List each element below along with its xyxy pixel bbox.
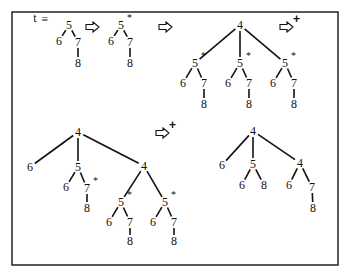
tree-node: 7 [201, 76, 207, 90]
tree-node: 7 [75, 35, 81, 49]
star-marker: * [127, 12, 132, 23]
tree-node: 4 [250, 124, 256, 138]
tree-t-expanded-top: 45*6785*6785*678 [180, 18, 297, 111]
star-marker: * [201, 50, 206, 61]
tree-node: 5 [192, 56, 198, 70]
tree-node: 4 [75, 125, 81, 139]
tree-edge [147, 171, 162, 197]
tree-node: 7 [309, 180, 315, 194]
tree-edge [258, 134, 295, 159]
tree-edge [292, 168, 298, 179]
tree-node: 8 [291, 97, 297, 111]
tree-node: 8 [127, 56, 133, 70]
star-marker: * [291, 50, 296, 61]
tree-node: 5 [118, 195, 124, 209]
plus-marker: + [293, 12, 300, 26]
tree-node: 6 [239, 178, 245, 192]
tree-node: 5 [118, 18, 124, 32]
tree-node: 8 [75, 56, 81, 70]
tree-node: 7 [171, 215, 177, 229]
star-marker: * [246, 50, 251, 61]
tree-t-expanded-bottom-left: 46567*845*6785*678 [27, 125, 177, 248]
rewrite-arrow-icon: + [280, 12, 300, 32]
tree-node: 5 [66, 18, 72, 32]
plus-marker: + [169, 118, 176, 132]
tree-node: 8 [310, 201, 316, 215]
rewrite-arrow-icon [86, 22, 99, 32]
tree-node: 8 [201, 97, 207, 111]
rewrite-arrow-icon [159, 22, 172, 32]
star-marker: * [93, 175, 98, 186]
tree-node: 7 [127, 215, 133, 229]
tree-node: 5 [75, 160, 81, 174]
tree-node: 7 [246, 76, 252, 90]
tree-node: 6 [56, 34, 62, 48]
tree-node: 8 [261, 178, 267, 192]
tree-t-starred: 5*678 [108, 12, 133, 70]
tree-node: 6 [219, 158, 225, 172]
tree-rewrite-diagram: t ≡ 56785*67845*6785*6785*67846567*845*6… [0, 0, 349, 276]
tree-node: 5 [282, 56, 288, 70]
tree-node: 6 [286, 178, 292, 192]
tree-node: 5 [250, 157, 256, 171]
tree-node: 6 [270, 76, 276, 90]
tree-node: 6 [27, 160, 33, 174]
tree-variable-label: t [33, 11, 37, 25]
tree-node: 6 [106, 215, 112, 229]
tree-edge [35, 136, 73, 164]
tree-node: 8 [171, 234, 177, 248]
tree-node: 5 [162, 195, 168, 209]
tree-node: 6 [63, 180, 69, 194]
tree-node: 6 [225, 76, 231, 90]
tree-t-final: 465684678 [219, 124, 316, 215]
tree-node: 7 [291, 76, 297, 90]
tree-node: 6 [150, 215, 156, 229]
rewrite-arrow-icon: + [156, 118, 176, 138]
tree-node: 6 [108, 34, 114, 48]
tree-t-original: 5678 [56, 18, 81, 70]
tree-edge [226, 135, 249, 160]
tree-node: 8 [246, 97, 252, 111]
tree-node: 7 [127, 35, 133, 49]
tree-edge [83, 135, 138, 164]
tree-node: 4 [297, 156, 303, 170]
star-marker: * [171, 189, 176, 200]
tree-node: 6 [180, 76, 186, 90]
tree-node: 8 [127, 234, 133, 248]
equivalence-symbol: ≡ [42, 12, 49, 26]
star-marker: * [127, 189, 132, 200]
tree-node: 8 [84, 201, 90, 215]
tree-node: 4 [237, 18, 243, 32]
tree-node: 4 [141, 159, 147, 173]
tree-node: 7 [84, 181, 90, 195]
tree-node: 5 [237, 56, 243, 70]
